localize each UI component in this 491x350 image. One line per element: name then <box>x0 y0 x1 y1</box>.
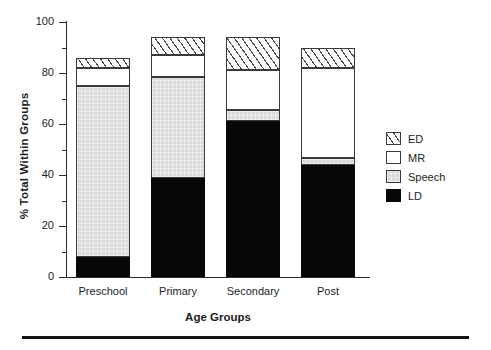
segment-secondary-mr[interactable] <box>226 70 280 110</box>
hatch-pattern <box>77 59 129 67</box>
legend: ED MR Speech LD <box>386 129 445 205</box>
legend-swatch-speech <box>386 170 401 183</box>
hatch-pattern <box>302 49 354 67</box>
legend-item-ld[interactable]: LD <box>386 186 445 205</box>
x-axis-title: Age Groups <box>66 311 370 323</box>
legend-label-speech: Speech <box>408 171 445 183</box>
legend-item-speech[interactable]: Speech <box>386 167 445 186</box>
y-tick-100 <box>59 22 66 23</box>
footer-rule <box>22 336 469 339</box>
segment-preschool-ld[interactable] <box>76 257 130 277</box>
speech-texture <box>387 171 400 182</box>
legend-label-ld: LD <box>408 190 422 202</box>
segment-primary-ed[interactable] <box>151 37 205 55</box>
x-axis-line <box>66 277 370 278</box>
legend-swatch-ld <box>386 189 401 202</box>
hatch-pattern <box>227 38 279 69</box>
y-tick-0 <box>59 277 66 278</box>
y-axis-title: % Total Within Groups <box>18 46 30 266</box>
y-tick-label-100: 100 <box>14 16 54 27</box>
plot-area <box>66 22 369 277</box>
segment-preschool-ed[interactable] <box>76 58 130 68</box>
segment-secondary-ld[interactable] <box>226 121 280 277</box>
hatch-pattern <box>152 38 204 54</box>
segment-primary-mr[interactable] <box>151 55 205 77</box>
segment-preschool-speech[interactable] <box>76 86 130 257</box>
segment-post-speech[interactable] <box>301 158 355 164</box>
segment-post-ed[interactable] <box>301 48 355 68</box>
segment-primary-ld[interactable] <box>151 178 205 277</box>
segment-post-mr[interactable] <box>301 68 355 159</box>
legend-swatch-ed <box>386 132 401 145</box>
y-tick-80 <box>59 73 66 74</box>
y-tick-60 <box>59 124 66 125</box>
legend-swatch-mr <box>386 151 401 164</box>
figure: 100 80 60 40 20 0 % Total Within Groups <box>0 0 491 350</box>
legend-label-ed: ED <box>408 133 423 145</box>
segment-preschool-mr[interactable] <box>76 68 130 86</box>
legend-item-ed[interactable]: ED <box>386 129 445 148</box>
speech-texture <box>152 78 204 177</box>
y-tick-20 <box>59 226 66 227</box>
x-tick-label-post: Post <box>273 285 383 297</box>
speech-texture <box>302 159 354 163</box>
legend-label-mr: MR <box>408 152 425 164</box>
legend-item-mr[interactable]: MR <box>386 148 445 167</box>
segment-secondary-speech[interactable] <box>226 110 280 122</box>
segment-post-ld[interactable] <box>301 165 355 277</box>
y-tick-label-0: 0 <box>14 271 54 282</box>
segment-primary-speech[interactable] <box>151 77 205 178</box>
speech-texture <box>227 111 279 121</box>
y-tick-40 <box>59 175 66 176</box>
hatch-pattern <box>387 133 400 144</box>
speech-texture <box>77 87 129 256</box>
segment-secondary-ed[interactable] <box>226 37 280 70</box>
